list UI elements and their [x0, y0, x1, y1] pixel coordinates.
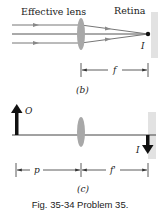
effective-lens	[77, 18, 85, 50]
lens-c	[77, 117, 85, 147]
focal-distance-label: f	[112, 65, 118, 75]
image-point	[146, 32, 150, 36]
panel-b: Effective lens Retina I f (b)	[12, 5, 158, 95]
image-label-b: I	[140, 41, 145, 51]
retina-label: Retina	[114, 5, 146, 16]
object-label: O	[25, 106, 33, 116]
image-label-c: I	[135, 145, 140, 155]
image-distance-label: f'	[109, 165, 116, 175]
panel-c: O I p f' (c)	[11, 104, 156, 194]
object-arrow-icon	[11, 104, 23, 135]
panel-c-label: (c)	[77, 184, 90, 194]
object-distance-label: p	[34, 165, 40, 175]
retina-band	[151, 12, 158, 58]
lens-label: Effective lens	[21, 6, 86, 17]
panel-b-label: (b)	[76, 85, 89, 95]
figure-caption: Fig. 35-34 Problem 35.	[0, 199, 160, 210]
lens-diagram: Effective lens Retina I f (b) O I	[0, 0, 160, 220]
